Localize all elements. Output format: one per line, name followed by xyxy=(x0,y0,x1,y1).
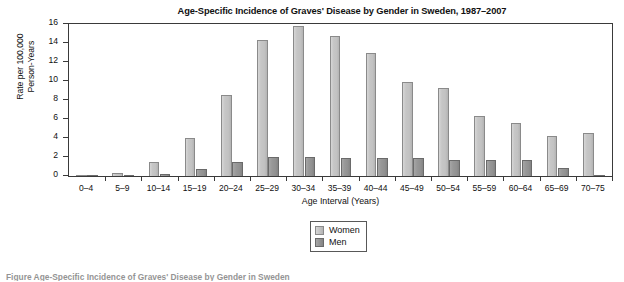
bar-women xyxy=(257,40,268,176)
bar-men xyxy=(268,157,279,176)
x-axis-tick-mark xyxy=(105,176,106,181)
bar-men xyxy=(87,175,98,176)
x-axis-tick-mark xyxy=(395,176,396,181)
bar-women xyxy=(221,95,232,176)
legend-item-women: Women xyxy=(315,224,360,236)
x-axis-tick-mark xyxy=(576,176,577,181)
x-axis-tick-mark xyxy=(612,176,613,181)
x-axis-tick-mark xyxy=(467,176,468,181)
bar-women xyxy=(402,82,413,176)
x-axis-tick-mark xyxy=(178,176,179,181)
y-axis-tick-label: 6 xyxy=(53,112,58,122)
y-axis-tick-mark xyxy=(63,61,68,62)
bar-women xyxy=(366,53,377,177)
legend-swatch-men-icon xyxy=(315,238,324,247)
figure-container: Age-Specific Incidence of Graves' Diseas… xyxy=(0,0,624,282)
y-axis-tick-label: 12 xyxy=(48,55,58,65)
y-axis-tick-label: 2 xyxy=(53,150,58,160)
legend-label-men: Men xyxy=(329,237,347,247)
x-axis-title: Age Interval (Years) xyxy=(68,196,613,206)
y-axis-tick-label: 4 xyxy=(53,131,58,141)
y-axis-tick-label: 0 xyxy=(53,169,58,179)
x-axis-tick-label: 25–29 xyxy=(255,183,279,193)
x-axis-tick-label: 0–4 xyxy=(79,183,93,193)
x-axis-tick-mark xyxy=(359,176,360,181)
bar-men xyxy=(377,158,388,176)
legend-label-women: Women xyxy=(329,225,360,235)
chart-title: Age-Specific Incidence of Graves' Diseas… xyxy=(72,6,612,16)
x-axis-tick-label: 5–9 xyxy=(115,183,129,193)
x-axis-tick-mark xyxy=(141,176,142,181)
y-axis-title: Rate per 100,000 Person-Years xyxy=(15,3,36,131)
bar-women xyxy=(511,123,522,176)
x-axis-tick-mark xyxy=(322,176,323,181)
x-axis-tick-label: 40–44 xyxy=(364,183,388,193)
y-axis-title-line-2: Person-Years xyxy=(26,3,37,131)
bar-women xyxy=(185,138,196,176)
bar-men xyxy=(486,160,497,176)
bar-women xyxy=(149,162,160,176)
x-axis-tick-mark xyxy=(503,176,504,181)
bar-women xyxy=(76,175,87,176)
chart-legend: Women Men xyxy=(310,221,367,252)
x-axis-tick-label: 60–64 xyxy=(509,183,533,193)
y-axis-tick-label: 10 xyxy=(48,74,58,84)
x-axis-tick-label: 10–14 xyxy=(147,183,171,193)
y-axis-title-line-1: Rate per 100,000 xyxy=(15,3,26,131)
x-axis-tick-mark xyxy=(286,176,287,181)
plot-inner xyxy=(69,24,612,176)
legend-swatch-women-icon xyxy=(315,226,324,235)
x-axis-tick-label: 70–75 xyxy=(581,183,605,193)
x-axis-tick-label: 30–34 xyxy=(291,183,315,193)
y-axis-tick-mark xyxy=(63,23,68,24)
bar-men xyxy=(558,168,569,176)
plot-area xyxy=(68,23,613,177)
bar-men xyxy=(305,157,316,176)
y-axis-tick-mark xyxy=(63,118,68,119)
bar-men xyxy=(232,162,243,176)
y-axis-tick-mark xyxy=(63,80,68,81)
x-axis-tick-label: 20–24 xyxy=(219,183,243,193)
bar-women xyxy=(330,36,341,176)
bar-men xyxy=(413,158,424,176)
bar-women xyxy=(112,173,123,176)
bar-women xyxy=(547,136,558,176)
y-axis-tick-label: 14 xyxy=(48,36,58,46)
bar-men xyxy=(124,175,135,176)
figure-caption: Figure Age-Specific Incidence of Graves'… xyxy=(6,272,426,281)
x-axis-tick-label: 35–39 xyxy=(328,183,352,193)
y-axis-tick-mark xyxy=(63,156,68,157)
x-axis-tick-mark xyxy=(250,176,251,181)
x-axis-tick-label: 55–59 xyxy=(472,183,496,193)
x-axis-tick-mark xyxy=(431,176,432,181)
x-axis-tick-label: 65–69 xyxy=(545,183,569,193)
y-axis-tick-label: 16 xyxy=(48,17,58,27)
bar-men xyxy=(522,160,533,176)
x-axis-tick-label: 45–49 xyxy=(400,183,424,193)
y-axis-tick-mark xyxy=(63,42,68,43)
bar-women xyxy=(438,88,449,176)
x-axis-tick-label: 15–19 xyxy=(183,183,207,193)
x-axis-tick-mark xyxy=(540,176,541,181)
bar-men xyxy=(449,160,460,176)
y-axis-tick-label: 8 xyxy=(53,93,58,103)
legend-item-men: Men xyxy=(315,236,360,248)
bar-men xyxy=(594,175,605,176)
y-axis-tick-mark xyxy=(63,99,68,100)
bar-women xyxy=(583,133,594,176)
bar-men xyxy=(341,158,352,176)
bar-men xyxy=(160,174,171,176)
bar-women xyxy=(293,26,304,176)
y-axis-tick-mark xyxy=(63,175,68,176)
bar-women xyxy=(474,116,485,176)
y-axis-tick-mark xyxy=(63,137,68,138)
x-axis-tick-label: 50–54 xyxy=(436,183,460,193)
bar-men xyxy=(196,169,207,176)
x-axis-tick-mark xyxy=(214,176,215,181)
